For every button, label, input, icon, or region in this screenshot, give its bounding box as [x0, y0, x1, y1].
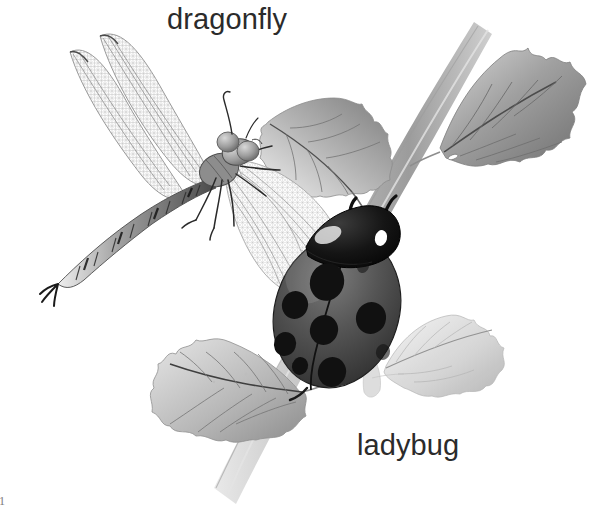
label-dragonfly: dragonfly — [167, 3, 287, 36]
illustration-page: dragonfly ladybug 1 — [0, 0, 595, 514]
page-number: 1 — [0, 494, 5, 509]
insect-illustration — [0, 0, 595, 514]
label-ladybug: ladybug — [357, 429, 459, 462]
